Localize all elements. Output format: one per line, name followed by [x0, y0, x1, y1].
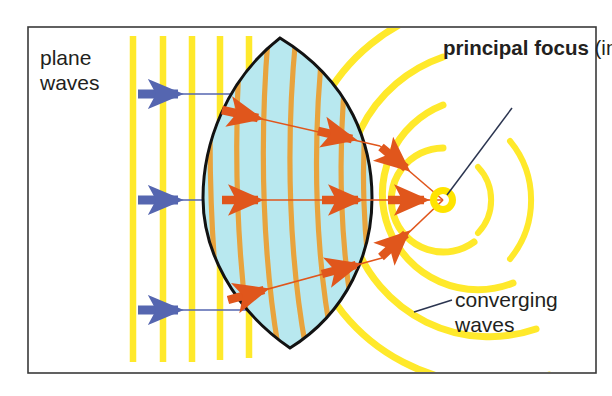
- label-plane-waves: plane waves: [40, 46, 100, 96]
- label-converging-waves: converging waves: [455, 288, 558, 338]
- optics-diagram: plane waves principal focus (image forme…: [0, 0, 612, 396]
- label-principal-focus: principal focus (image formed here): [443, 36, 603, 60]
- label-principal-focus-bold: principal focus: [443, 36, 589, 59]
- label-principal-focus-rest: (image formed here): [589, 36, 612, 59]
